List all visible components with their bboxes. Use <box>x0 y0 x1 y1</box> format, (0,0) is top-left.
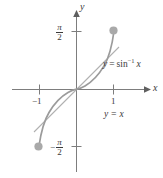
curve-eq-y: y <box>103 59 107 69</box>
neg-pi-over-two-sign: − <box>50 143 55 153</box>
pi-over-two-fraction: π 2 <box>56 23 63 42</box>
x-tick-label-neg-one: −1 <box>32 97 42 106</box>
line-equation-label: y = x <box>104 110 124 120</box>
neg-pi-over-two-numerator: π <box>56 138 63 147</box>
plot-area <box>0 0 163 178</box>
y-tick-label-pi-over-two: π 2 <box>55 23 63 42</box>
neg-pi-over-two-denominator: 2 <box>56 148 63 157</box>
curve-eq-argument: x <box>137 59 141 69</box>
graph-figure: y x −1 1 π 2 − π 2 y=sin−1x y = x <box>0 0 163 178</box>
pi-over-two-numerator: π <box>56 23 63 32</box>
curve-eq-exponent: −1 <box>128 57 135 64</box>
neg-pi-over-two-fraction: π 2 <box>56 138 63 157</box>
y-axis-label: y <box>80 2 84 12</box>
curve-eq-operator: = <box>109 59 114 69</box>
y-tick-label-neg-pi-over-two: − π 2 <box>50 138 63 157</box>
x-tick-label-one: 1 <box>111 97 116 106</box>
y-axis-arrowhead <box>73 10 80 17</box>
endpoint-upper-dot <box>109 26 117 34</box>
endpoint-lower-dot <box>34 142 42 150</box>
curve-equation-label: y=sin−1x <box>103 60 141 70</box>
x-axis-label: x <box>153 83 157 93</box>
x-axis-arrowhead <box>144 86 151 93</box>
curve-eq-function: sin <box>117 59 128 69</box>
pi-over-two-denominator: 2 <box>56 33 63 42</box>
